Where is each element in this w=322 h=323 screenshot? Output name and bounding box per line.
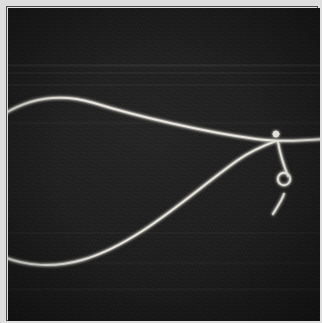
knot-tail bbox=[273, 194, 284, 214]
filament-overlay bbox=[8, 8, 320, 321]
image-viewport bbox=[0, 0, 322, 323]
knot-loop bbox=[278, 173, 290, 185]
photographic-plate bbox=[8, 8, 320, 321]
lower-strand-glow bbox=[8, 141, 276, 265]
knot-stem bbox=[278, 142, 288, 176]
strand-junction-node bbox=[273, 131, 279, 137]
